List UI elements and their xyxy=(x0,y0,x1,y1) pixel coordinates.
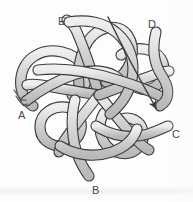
knot-diagram-canvas xyxy=(0,0,193,202)
label-d: D xyxy=(148,19,156,30)
label-c: C xyxy=(172,129,180,140)
label-a: A xyxy=(18,110,26,121)
label-b: B xyxy=(92,185,100,196)
knot-strands xyxy=(14,17,169,176)
label-e: E xyxy=(58,16,66,27)
knot-figure: A B C D E xyxy=(0,0,193,202)
